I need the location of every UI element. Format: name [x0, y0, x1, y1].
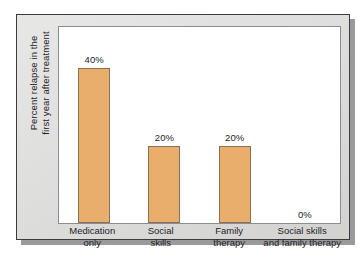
bar-value-label: 40% — [85, 55, 104, 65]
x-label-line-1: Family — [215, 225, 243, 236]
bar-value-label: 20% — [225, 133, 244, 143]
x-label-line-1: Medication — [69, 225, 115, 236]
y-axis-title-line-2: first year after treatment — [40, 31, 52, 134]
bar-value-label: 0% — [298, 210, 312, 220]
x-label-line-1: Social — [148, 225, 174, 236]
y-axis-title: Percent relapse in the first year after … — [20, 3, 60, 163]
bar-column-social-skills: 20% — [129, 27, 199, 223]
x-axis-label-family-therapy: Family therapy — [195, 225, 263, 248]
bar-family-therapy — [219, 146, 251, 224]
x-label-line-2: only — [58, 237, 126, 249]
bar-column-medication-only: 40% — [59, 27, 129, 223]
x-label-line-1: Social skills — [278, 225, 327, 236]
x-axis-label-medication-only: Medication only — [58, 225, 126, 248]
x-label-line-2: and family therapy — [263, 237, 341, 249]
x-axis-label-social-skills-and-family-therapy: Social skills and family therapy — [263, 225, 341, 248]
bar-medication-only — [78, 68, 110, 223]
plot-inner: 40% 20% 20% 0% — [59, 27, 340, 223]
y-axis-title-line-1: Percent relapse in the — [28, 36, 40, 131]
bar-social-skills — [148, 146, 180, 224]
figure-frame: Percent relapse in the first year after … — [16, 14, 350, 240]
bars-row: 40% 20% 20% 0% — [59, 27, 340, 223]
x-label-line-2: therapy — [195, 237, 263, 249]
bar-column-social-skills-and-family-therapy: 0% — [270, 27, 340, 223]
bar-column-family-therapy: 20% — [200, 27, 270, 223]
x-axis-labels: Medication only Social skills Family the… — [58, 225, 341, 248]
figure-container: Percent relapse in the first year after … — [0, 0, 359, 270]
plot-canvas: 40% 20% 20% 0% — [58, 26, 341, 224]
x-label-line-2: skills — [126, 237, 194, 249]
x-axis-label-social-skills: Social skills — [126, 225, 194, 248]
bar-value-label: 20% — [155, 133, 174, 143]
figure-mat: Percent relapse in the first year after … — [17, 15, 349, 239]
